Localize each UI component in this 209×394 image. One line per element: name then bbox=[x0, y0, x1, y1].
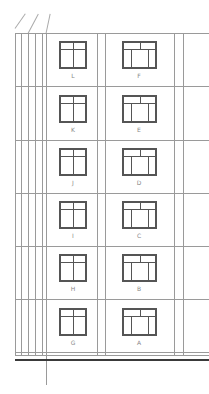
grid-line-vertical bbox=[183, 33, 184, 355]
window-label: F bbox=[129, 72, 149, 79]
window-left bbox=[59, 95, 87, 123]
floor-line bbox=[15, 246, 209, 247]
floor-line bbox=[15, 193, 209, 194]
window-left bbox=[59, 308, 87, 336]
window-left bbox=[59, 148, 87, 176]
grid-line-vertical bbox=[105, 33, 106, 355]
leader-line bbox=[28, 14, 39, 34]
floor-line bbox=[15, 299, 209, 300]
window-label: C bbox=[129, 232, 149, 239]
window-left bbox=[59, 41, 87, 69]
grid-line-vertical bbox=[35, 33, 36, 355]
window-right bbox=[122, 201, 157, 229]
grid-line-vertical bbox=[28, 33, 29, 355]
window-right bbox=[122, 148, 157, 176]
window-label: A bbox=[129, 339, 149, 346]
window-label: B bbox=[129, 285, 149, 292]
leader-line bbox=[46, 14, 51, 34]
grid-line-vertical bbox=[21, 33, 22, 355]
grid-line-vertical bbox=[97, 33, 98, 355]
floor-line bbox=[15, 86, 209, 87]
base-line bbox=[15, 352, 209, 353]
leader-line bbox=[15, 13, 26, 28]
window-left bbox=[59, 201, 87, 229]
window-right bbox=[122, 308, 157, 336]
window-label: G bbox=[63, 339, 83, 346]
grid-line-vertical bbox=[42, 33, 43, 355]
grid-line-vertical bbox=[15, 33, 16, 355]
window-label: H bbox=[63, 285, 83, 292]
window-left bbox=[59, 254, 87, 282]
window-label: K bbox=[63, 126, 83, 133]
window-label: J bbox=[63, 179, 83, 186]
grid-line-vertical bbox=[174, 33, 175, 355]
window-right bbox=[122, 41, 157, 69]
window-label: I bbox=[63, 232, 83, 239]
ground-line bbox=[15, 359, 209, 361]
window-label: D bbox=[129, 179, 149, 186]
window-label: L bbox=[63, 72, 83, 79]
window-right bbox=[122, 95, 157, 123]
window-right bbox=[122, 254, 157, 282]
floor-line bbox=[15, 140, 209, 141]
floor-line bbox=[15, 33, 209, 34]
base-line bbox=[15, 355, 209, 356]
window-label: E bbox=[129, 126, 149, 133]
